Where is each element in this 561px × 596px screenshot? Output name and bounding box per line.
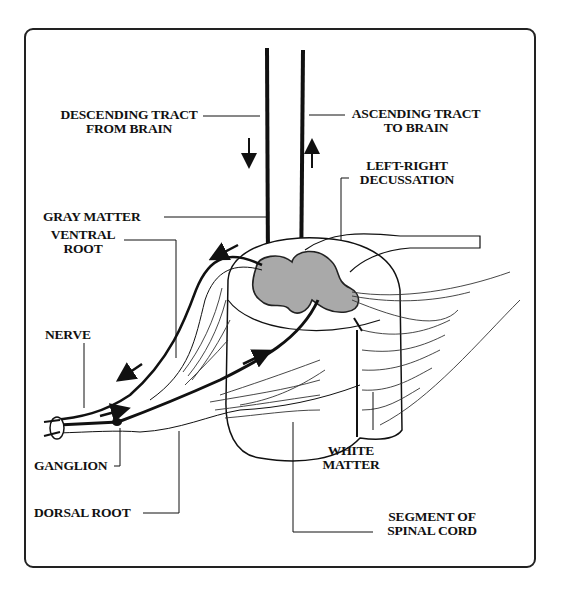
label-line: SEGMENT OF [380,510,484,524]
label-dorsal-root: DORSAL ROOT [34,506,130,520]
label-line: FROM BRAIN [54,122,204,136]
label-segment-spinal-cord: SEGMENT OF SPINAL CORD [380,510,484,538]
label-line: VENTRAL [44,228,122,242]
label-ventral-root: VENTRAL ROOT [44,228,122,256]
descending-tract-line [267,48,268,272]
label-descending-tract: DESCENDING TRACT FROM BRAIN [54,108,204,136]
label-line: ROOT [44,242,122,256]
label-decussation: LEFT-RIGHT DECUSSATION [352,159,462,187]
label-white-matter: WHITE MATTER [316,444,386,472]
label-line: WHITE [316,444,386,458]
label-ganglion: GANGLION [34,459,107,473]
label-gray-matter: GRAY MATTER [43,210,140,224]
label-line: ASCENDING TRACT [346,107,486,121]
label-line: DECUSSATION [352,173,462,187]
label-ascending-tract: ASCENDING TRACT TO BRAIN [346,107,486,135]
label-line: TO BRAIN [346,121,486,135]
ganglion-dot [112,418,122,426]
label-line: MATTER [316,458,386,472]
label-line: DESCENDING TRACT [54,108,204,122]
label-nerve: NERVE [45,328,91,342]
ventral-out-arrow-lower-icon [120,364,142,379]
label-line: SPINAL CORD [380,524,484,538]
label-line: LEFT-RIGHT [352,159,462,173]
